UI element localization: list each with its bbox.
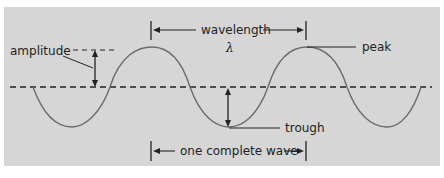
trough-label: trough <box>285 121 325 135</box>
trough-depth-arrow <box>225 88 231 127</box>
one-complete-wave-label: one complete wave <box>180 144 298 158</box>
lambda-symbol: λ <box>226 41 234 55</box>
wavelength-label: wavelength <box>201 23 271 37</box>
peak-label: peak <box>362 40 391 54</box>
amplitude-label: amplitude <box>10 44 71 58</box>
amplitude-arrow <box>92 50 98 87</box>
